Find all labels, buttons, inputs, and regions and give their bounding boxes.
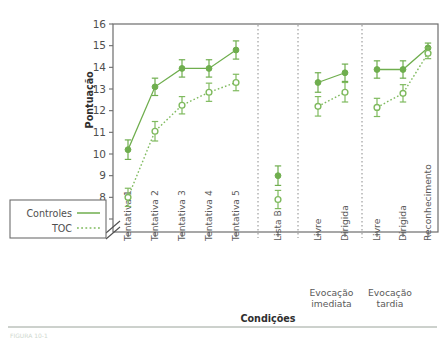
data-point-filled: [400, 67, 406, 73]
x-group-label: Evocaçãotardia: [368, 287, 412, 309]
x-axis-title: Condições: [240, 313, 295, 324]
y-tick-label: 15: [93, 39, 106, 51]
data-point-open: [233, 80, 239, 86]
x-category-label: Tentativa 3: [176, 190, 187, 242]
figure-caption-faint: FIGURA 10-1: [10, 332, 48, 339]
data-point-filled: [152, 84, 158, 90]
data-point-open: [152, 128, 158, 134]
data-point-filled: [206, 66, 212, 72]
x-category-label: Dirigida: [397, 205, 408, 241]
data-point-open: [342, 89, 348, 95]
data-point-open: [179, 102, 185, 108]
legend-label-controles: Controles: [26, 208, 72, 219]
data-point-open: [400, 90, 406, 96]
data-point-open: [425, 50, 431, 56]
data-point-open: [315, 103, 321, 109]
x-category-label: Tentativa 4: [203, 190, 214, 242]
figure-container: 78910111213141516PontuaçãoTentativa 1Ten…: [0, 0, 445, 340]
x-category-label: Dirigida: [339, 205, 350, 241]
data-point-filled: [179, 66, 185, 72]
x-category-label: Livre: [312, 218, 323, 241]
data-point-open: [125, 194, 131, 200]
data-point-filled: [125, 147, 131, 153]
data-point-filled: [233, 47, 239, 53]
y-tick-label: 10: [93, 148, 106, 160]
x-category-label: Tentativa 2: [149, 190, 160, 242]
x-category-label: Livre: [371, 218, 382, 241]
x-group-label: Evocaçãoimediata: [310, 287, 354, 309]
data-point-filled: [315, 80, 321, 86]
y-axis-title: Pontuação: [84, 71, 95, 129]
x-category-label: Lista B: [272, 210, 283, 241]
data-point-open: [275, 197, 281, 203]
data-point-open: [206, 89, 212, 95]
legend-label-toc: TOC: [51, 223, 72, 234]
y-tick-label: 16: [93, 18, 107, 30]
x-category-label: Tentativa 5: [230, 190, 241, 242]
data-point-open: [374, 105, 380, 111]
line-chart: 78910111213141516PontuaçãoTentativa 1Ten…: [0, 0, 445, 340]
data-point-filled: [275, 173, 281, 179]
x-category-label: Reconhecimento: [422, 164, 433, 241]
y-tick-label: 9: [99, 169, 106, 181]
data-point-filled: [374, 67, 380, 73]
data-point-filled: [342, 70, 348, 76]
